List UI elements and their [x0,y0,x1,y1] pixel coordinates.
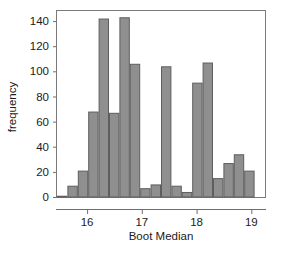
histogram-bar [245,171,254,197]
histogram-bar [214,179,223,197]
histogram-bar [99,19,108,197]
histogram-bar [203,63,212,197]
histogram-bar [151,185,160,197]
y-axis-title: frequency [6,82,18,133]
histogram-figure: 020406080100120140 16171819 Boot Median … [0,0,292,253]
histogram-bar [172,186,181,197]
y-tick-label: 20 [36,166,49,178]
y-tick-label: 140 [30,15,49,27]
x-axis-title: Boot Median [129,230,194,242]
y-tick-label: 40 [36,141,49,153]
y-tick-label: 0 [43,191,49,203]
histogram-bar [58,196,67,197]
histogram-bar [182,192,191,197]
histogram-bar [224,164,233,197]
histogram-bar [234,155,243,197]
histogram-svg: 020406080100120140 16171819 Boot Median … [0,0,292,253]
histogram-bar [68,186,77,197]
y-axis-group: 020406080100120140 [30,15,57,203]
x-axis-group: 16171819 [81,210,258,228]
histogram-bar [162,67,171,197]
histogram-bar [193,83,202,197]
y-tick-label: 120 [30,40,49,52]
x-tick-label: 17 [135,216,148,228]
histogram-bar [110,113,119,197]
x-tick-label: 18 [190,216,203,228]
histogram-bar [78,171,87,197]
histogram-bar [141,189,150,197]
y-tick-label: 60 [36,116,49,128]
y-tick-label: 100 [30,65,49,77]
histogram-bar [89,112,98,197]
histogram-bar [130,64,139,197]
histogram-bar [120,18,129,197]
x-tick-label: 16 [81,216,94,228]
bars-group [58,18,255,197]
x-tick-label: 19 [245,216,258,228]
y-tick-label: 80 [36,91,49,103]
